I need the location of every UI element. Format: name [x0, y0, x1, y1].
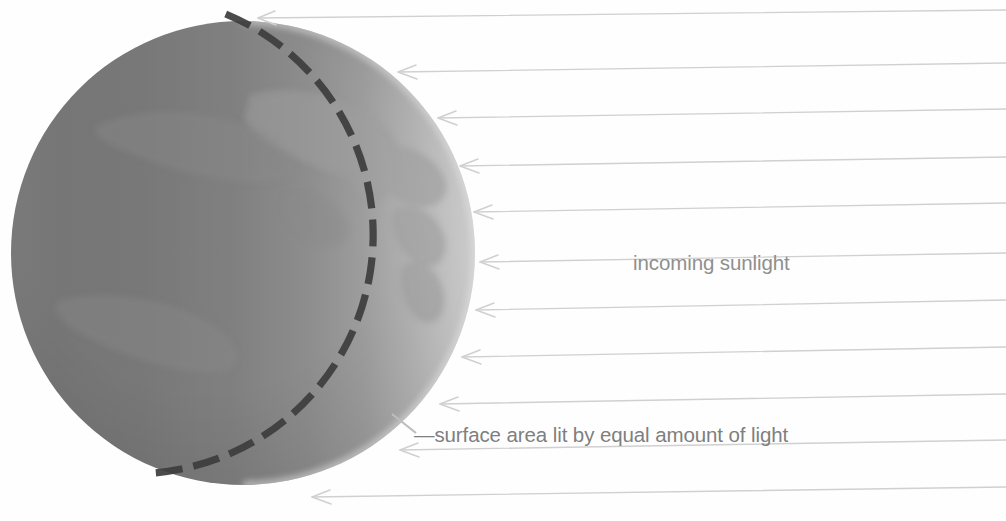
- sunlight-ray: [398, 63, 1006, 79]
- sunlight-ray: [440, 394, 1006, 411]
- earth-globe: [11, 21, 475, 485]
- diagram-canvas: incoming sunlight —surface area lit by e…: [0, 0, 1006, 521]
- sunlight-ray: [312, 487, 1006, 504]
- sunlight-ray: [258, 10, 1006, 25]
- continents-layer: [11, 21, 475, 485]
- label-incoming-sunlight: incoming sunlight: [633, 251, 790, 275]
- sunlight-ray: [438, 109, 1006, 125]
- label-surface-area: —surface area lit by equal amount of lig…: [414, 423, 788, 447]
- sunlight-ray: [474, 203, 1006, 219]
- sunlight-ray: [476, 300, 1006, 317]
- sunlight-ray: [460, 157, 1006, 173]
- sunlight-ray: [462, 347, 1006, 364]
